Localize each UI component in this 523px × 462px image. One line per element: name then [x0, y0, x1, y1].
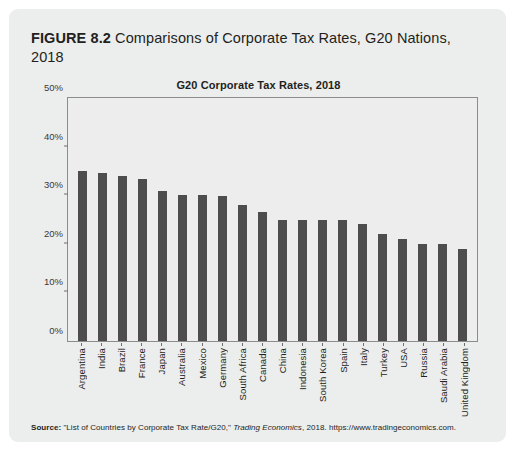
x-slot: France [131, 343, 151, 413]
bar[interactable] [198, 195, 207, 341]
bar[interactable] [158, 191, 167, 341]
y-tick-label: 0% [49, 325, 63, 336]
bar[interactable] [258, 212, 267, 341]
x-tick-mark [161, 343, 162, 346]
y-tick-label: 10% [44, 276, 63, 287]
source-publication: Trading Economics [233, 423, 302, 432]
x-slot: USA [394, 343, 414, 413]
x-slot: Australia [172, 343, 192, 413]
bar-slot [433, 98, 453, 341]
x-slot: South Africa [232, 343, 252, 413]
bar-slot [212, 98, 232, 341]
y-tick-label: 30% [44, 179, 63, 190]
bar[interactable] [438, 244, 447, 341]
x-axis-labels: ArgentinaIndiaBrazilFranceJapanAustralia… [67, 343, 478, 413]
bar-slot [453, 98, 473, 341]
bar-slot [413, 98, 433, 341]
figure-label: FIGURE 8.2 [31, 30, 111, 46]
bar[interactable] [418, 244, 427, 341]
x-slot: Canada [252, 343, 272, 413]
x-axis-label: Italy [358, 348, 369, 366]
source-text-after: , 2018. https://www.tradingeconomics.com… [302, 423, 456, 432]
x-tick-mark [181, 343, 182, 346]
x-axis-label: Germany [217, 348, 228, 388]
figure-caption: FIGURE 8.2 Comparisons of Corporate Tax … [31, 29, 471, 67]
x-tick-mark [282, 343, 283, 346]
bar[interactable] [278, 220, 287, 342]
bar[interactable] [318, 220, 327, 342]
x-tick-mark [121, 343, 122, 346]
y-tick-label: 50% [44, 82, 63, 93]
source-label: Source: [31, 423, 61, 432]
x-axis-label: Saudi Arabia [438, 348, 449, 403]
x-tick-mark [464, 343, 465, 346]
source-note: Source: "List of Countries by Corporate … [31, 423, 491, 432]
x-axis-label: Turkey [378, 348, 389, 377]
x-tick-mark [343, 343, 344, 346]
x-axis-label: Canada [257, 348, 268, 382]
y-tick-label: 40% [44, 130, 63, 141]
bar-slot [353, 98, 373, 341]
bar[interactable] [338, 220, 347, 342]
x-axis-label: Japan [156, 348, 167, 374]
bar[interactable] [458, 249, 467, 341]
x-axis-label: China [277, 348, 288, 373]
source-text-before: "List of Countries by Corporate Tax Rate… [63, 423, 233, 432]
bar-slot [192, 98, 212, 341]
bar[interactable] [218, 196, 227, 341]
plot-frame: 0%10%20%30%40%50% [67, 97, 478, 342]
x-tick-mark [141, 343, 142, 346]
bar[interactable] [138, 179, 147, 341]
x-tick-mark [81, 343, 82, 346]
bar[interactable] [178, 195, 187, 341]
bar[interactable] [378, 234, 387, 341]
x-axis-label: Mexico [197, 348, 208, 379]
x-tick-mark [423, 343, 424, 346]
x-tick-mark [302, 343, 303, 346]
bar-slot [232, 98, 252, 341]
bar-slot [132, 98, 152, 341]
x-tick-mark [222, 343, 223, 346]
x-axis-label: South Africa [237, 348, 248, 400]
bar[interactable] [298, 220, 307, 342]
x-tick-mark [202, 343, 203, 346]
x-tick-mark [101, 343, 102, 346]
x-slot: South Korea [313, 343, 333, 413]
bar[interactable] [118, 176, 127, 341]
x-axis-label: United Kingdom [459, 348, 470, 417]
x-tick-mark [363, 343, 364, 346]
x-axis-label: Indonesia [297, 348, 308, 390]
x-axis-label: South Korea [317, 348, 328, 402]
bar[interactable] [78, 171, 87, 341]
x-axis-label: Brazil [116, 348, 127, 372]
bar-slot [293, 98, 313, 341]
x-slot: Japan [152, 343, 172, 413]
x-axis-label: Australia [176, 348, 187, 386]
x-tick-mark [383, 343, 384, 346]
bar[interactable] [358, 224, 367, 341]
x-slot: China [273, 343, 293, 413]
bar-slot [92, 98, 112, 341]
x-slot: India [91, 343, 111, 413]
x-slot: Argentina [71, 343, 91, 413]
y-tick-label: 20% [44, 227, 63, 238]
bar-slot [252, 98, 272, 341]
x-slot: Indonesia [293, 343, 313, 413]
x-tick-mark [242, 343, 243, 346]
bar-slot [72, 98, 92, 341]
bar-slot [373, 98, 393, 341]
bar[interactable] [398, 239, 407, 341]
x-axis-label: USA [398, 348, 409, 368]
x-slot: United Kingdom [454, 343, 474, 413]
bar[interactable] [238, 205, 247, 341]
x-axis-label: Argentina [76, 348, 87, 390]
bar[interactable] [98, 173, 107, 341]
x-tick-mark [262, 343, 263, 346]
x-axis-label: France [136, 348, 147, 378]
x-tick-mark [443, 343, 444, 346]
plot-wrapper: 0%10%20%30%40%50% [31, 97, 486, 342]
bar-slot [152, 98, 172, 341]
bar-series [68, 98, 477, 341]
bar-slot [313, 98, 333, 341]
chart-area: G20 Corporate Tax Rates, 2018 0%10%20%30… [31, 79, 486, 414]
